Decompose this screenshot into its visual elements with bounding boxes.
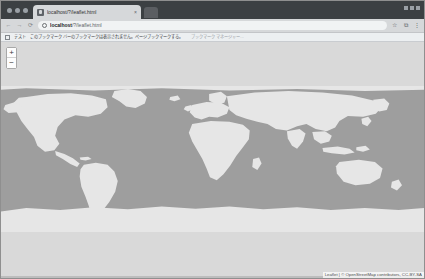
bookmarks-infobar: テスト このブックマーク バーのブックマークは表示されません。ページブックマーク… bbox=[1, 33, 424, 42]
toolbar-actions: ☆ ⧉ ⋮ bbox=[391, 22, 420, 29]
tab-strip: localhost/?/leaflet.html × bbox=[1, 1, 424, 19]
map-attribution: Leaflet | © OpenStreetMap contributors, … bbox=[323, 272, 424, 278]
menu-icon[interactable]: ⋮ bbox=[413, 22, 420, 29]
close-window-button[interactable] bbox=[7, 8, 12, 13]
close-icon[interactable] bbox=[416, 6, 420, 10]
map-zoom-control[interactable]: + − bbox=[6, 47, 17, 69]
window-controls[interactable] bbox=[404, 6, 420, 10]
leaflet-link[interactable]: Leaflet bbox=[325, 272, 338, 277]
forward-icon[interactable]: → bbox=[16, 22, 23, 29]
star-icon[interactable]: ☆ bbox=[391, 22, 398, 29]
maximize-icon[interactable] bbox=[410, 6, 414, 10]
extensions-icon[interactable]: ⧉ bbox=[402, 22, 409, 29]
globe-icon bbox=[37, 9, 44, 16]
browser-window: localhost/?/leaflet.html × ← → ⟳ localho… bbox=[0, 0, 425, 279]
url-path: /?/leaflet.html bbox=[72, 22, 102, 28]
browser-toolbar: ← → ⟳ localhost/?/leaflet.html ☆ ⧉ ⋮ bbox=[1, 19, 424, 33]
leaflet-map[interactable]: + − Leaflet | © OpenStreetMap contributo… bbox=[1, 42, 424, 278]
infobar-label[interactable]: テスト bbox=[14, 34, 26, 40]
zoom-in-button[interactable]: + bbox=[7, 48, 16, 58]
url-host: localhost bbox=[50, 22, 72, 28]
browser-tab[interactable]: localhost/?/leaflet.html × bbox=[33, 5, 141, 19]
reload-icon[interactable]: ⟳ bbox=[27, 22, 34, 29]
info-circle-icon[interactable] bbox=[42, 23, 47, 28]
world-map-svg bbox=[1, 86, 424, 232]
attribution-credit[interactable]: © OpenStreetMap contributors, CC-BY-SA bbox=[341, 272, 422, 277]
close-icon[interactable]: × bbox=[134, 9, 137, 16]
window-traffic-lights[interactable] bbox=[5, 1, 33, 19]
zoom-out-button[interactable]: − bbox=[7, 58, 16, 68]
minimize-icon[interactable] bbox=[404, 6, 408, 10]
bookmark-icon bbox=[5, 35, 10, 40]
maximize-window-button[interactable] bbox=[23, 8, 28, 13]
address-bar[interactable]: localhost/?/leaflet.html bbox=[38, 21, 387, 30]
map-tile-layer[interactable] bbox=[1, 86, 424, 232]
tab-title: localhost/?/leaflet.html bbox=[47, 9, 131, 16]
back-icon[interactable]: ← bbox=[5, 22, 12, 29]
page-viewport: + − Leaflet | © OpenStreetMap contributo… bbox=[1, 42, 424, 278]
new-tab-button[interactable] bbox=[144, 7, 158, 18]
address-bar-url: localhost/?/leaflet.html bbox=[50, 22, 102, 29]
infobar-message: このブックマーク バーのブックマークは表示されません。ページブックマークする。 bbox=[30, 34, 183, 40]
minimize-window-button[interactable] bbox=[15, 8, 20, 13]
infobar-secondary-text[interactable]: ブックマーク マネージャー... bbox=[191, 34, 244, 40]
